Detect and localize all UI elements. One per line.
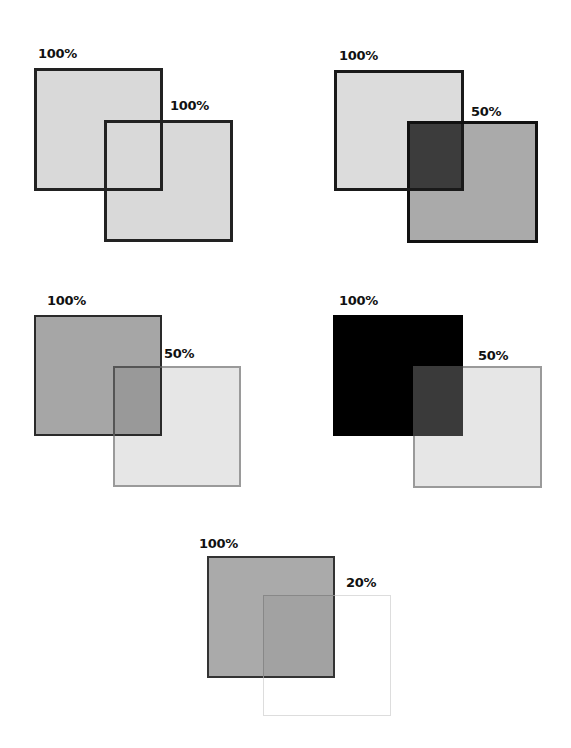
panel-20-over-gray: 100% 20% xyxy=(0,0,571,748)
square-b-left-edge xyxy=(263,595,264,678)
overlap-region xyxy=(264,596,333,676)
label-square-b: 20% xyxy=(346,576,376,589)
square-b-top-edge xyxy=(263,595,335,596)
label-square-a: 100% xyxy=(199,537,238,550)
